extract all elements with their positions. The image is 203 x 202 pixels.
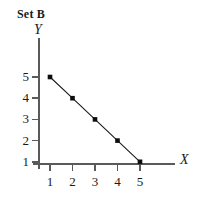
x-tick-label: 3 bbox=[87, 174, 103, 190]
series-markers bbox=[48, 75, 143, 164]
y-tick-mark bbox=[32, 97, 39, 99]
y-axis-line bbox=[38, 38, 40, 169]
data-point-marker bbox=[48, 75, 53, 80]
y-tick-label: 3 bbox=[15, 111, 29, 127]
x-tick-label: 5 bbox=[132, 174, 148, 190]
x-tick-mark bbox=[49, 164, 51, 171]
x-tick-mark bbox=[139, 164, 141, 171]
y-tick-mark bbox=[32, 119, 39, 121]
x-tick-label: 4 bbox=[110, 174, 126, 190]
x-tick-mark bbox=[94, 164, 96, 171]
chart-figure: Set B Y X 12345 12345 bbox=[0, 0, 203, 202]
x-tick-mark bbox=[72, 164, 74, 171]
x-tick-mark bbox=[117, 164, 119, 171]
y-tick-label: 4 bbox=[15, 90, 29, 106]
series-line-set-b bbox=[50, 77, 140, 162]
data-point-marker bbox=[93, 117, 98, 122]
x-tick-label: 2 bbox=[65, 174, 81, 190]
y-tick-mark bbox=[32, 140, 39, 142]
x-axis-line bbox=[33, 163, 175, 165]
plot-area bbox=[0, 0, 203, 202]
y-tick-mark bbox=[32, 161, 39, 163]
y-axis-label: Y bbox=[34, 22, 42, 38]
y-tick-label: 1 bbox=[15, 154, 29, 170]
data-point-marker bbox=[70, 96, 75, 101]
y-tick-label: 5 bbox=[15, 69, 29, 85]
x-axis-label: X bbox=[180, 152, 189, 168]
y-tick-mark bbox=[32, 76, 39, 78]
data-point-marker bbox=[115, 138, 120, 143]
chart-title: Set B bbox=[17, 7, 45, 22]
y-tick-label: 2 bbox=[15, 133, 29, 149]
x-tick-label: 1 bbox=[42, 174, 58, 190]
